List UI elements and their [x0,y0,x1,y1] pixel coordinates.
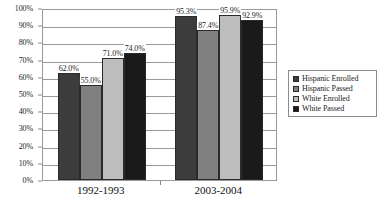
legend-item-label: Hispanic Enrolled [302,74,358,83]
bar-value-label: 95.3% [175,7,197,16]
x-axis-tick-mark [160,181,161,185]
legend-item-label: Hispanic Passed [302,84,353,93]
legend-swatch-icon [293,96,299,102]
bars-layer: 62.0%55.0%71.0%74.0%95.3%87.4%95.9%92.9% [43,10,276,180]
legend-item[interactable]: Hispanic Passed [293,84,373,93]
y-axis-tick-label: 80% [19,39,33,47]
bar[interactable]: 55.0% [80,85,102,180]
legend-swatch-icon [293,86,299,92]
bar-value-label: 71.0% [102,49,124,58]
y-axis-tick-label: 70% [19,57,33,65]
bar[interactable]: 95.3% [175,16,197,180]
y-axis: 0%10%20%30%40%50%60%70%80%90%100% [0,9,38,181]
legend-item-label: White Enrolled [302,94,350,103]
legend-item[interactable]: White Enrolled [293,94,373,103]
bar[interactable]: 92.9% [241,20,263,180]
bar[interactable]: 62.0% [58,73,80,180]
bar-value-label: 87.4% [197,21,219,30]
x-axis: 1992-19932003-2004 [42,184,277,204]
y-axis-tick-label: 100% [15,5,33,13]
bar-group: 95.3%87.4%95.9%92.9% [175,10,263,180]
bar-value-label: 92.9% [241,11,263,20]
bar-value-label: 95.9% [219,6,241,15]
bar-value-label: 62.0% [58,64,80,73]
x-axis-category-label: 2003-2004 [194,184,242,197]
plot-area: 62.0%55.0%71.0%74.0%95.3%87.4%95.9%92.9% [42,9,277,181]
x-axis-category-label: 1992-1993 [77,184,125,197]
legend-item[interactable]: White Passed [293,104,373,113]
y-axis-tick-label: 60% [19,74,33,82]
bar[interactable]: 74.0% [124,53,146,180]
bar-group: 62.0%55.0%71.0%74.0% [58,10,146,180]
y-axis-tick-label: 10% [19,160,33,168]
bar[interactable]: 71.0% [102,58,124,180]
legend-swatch-icon [293,106,299,112]
y-axis-tick-label: 30% [19,125,33,133]
bar[interactable]: 95.9% [219,15,241,180]
bar-chart: 0%10%20%30%40%50%60%70%80%90%100% 62.0%5… [0,0,382,209]
legend-swatch-icon [293,76,299,82]
bar-value-label: 74.0% [124,44,146,53]
legend-item-label: White Passed [302,104,344,113]
bar[interactable]: 87.4% [197,30,219,180]
y-axis-tick-label: 40% [19,108,33,116]
y-axis-tick-label: 0% [23,177,33,185]
legend-item[interactable]: Hispanic Enrolled [293,74,373,83]
bar-value-label: 55.0% [80,76,102,85]
y-axis-tick-label: 90% [19,22,33,30]
y-axis-tick-label: 20% [19,143,33,151]
y-axis-tick-label: 50% [19,91,33,99]
chart-legend: Hispanic EnrolledHispanic PassedWhite En… [288,70,377,117]
